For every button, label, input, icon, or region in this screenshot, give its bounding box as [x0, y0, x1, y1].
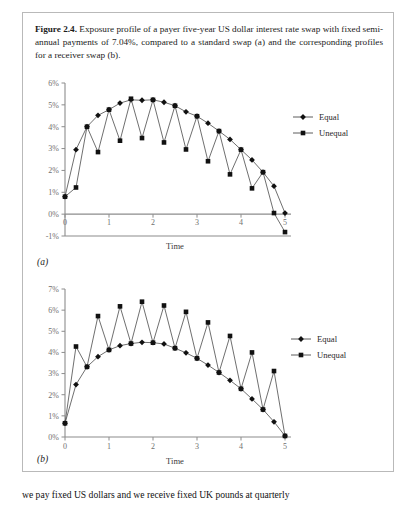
- data-point: [129, 96, 134, 101]
- y-tick-label: 3%: [48, 144, 59, 153]
- series-equal: [62, 97, 288, 216]
- chart-b-svg: 0%1%2%3%4%5%6%7%012345TimeEqualUnequal: [23, 281, 395, 471]
- data-point: [140, 136, 145, 141]
- x-tick-label: 3: [195, 218, 199, 227]
- data-point: [261, 170, 266, 175]
- data-point: [195, 114, 200, 119]
- data-point: [63, 421, 68, 426]
- x-axis-title: Time: [166, 456, 184, 466]
- data-point: [217, 129, 222, 134]
- data-point: [239, 147, 244, 152]
- x-tick-label: 2: [151, 442, 155, 451]
- data-point: [129, 341, 134, 346]
- data-point: [96, 150, 101, 155]
- figure-page: Figure 2.4. Exposure profile of a payer …: [0, 0, 415, 516]
- data-point: [117, 343, 123, 349]
- data-point: [250, 350, 255, 355]
- x-tick-label: 0: [63, 442, 67, 451]
- data-point: [162, 303, 167, 308]
- x-tick-label: 1: [107, 442, 111, 451]
- data-point: [205, 120, 211, 126]
- legend-label-unequal: Unequal: [317, 350, 347, 360]
- data-point: [283, 434, 288, 439]
- data-point: [73, 382, 79, 388]
- data-point: [74, 344, 79, 349]
- x-ticks: 012345: [63, 437, 287, 451]
- data-point: [282, 210, 288, 216]
- data-point: [96, 314, 101, 319]
- series-unequal: [63, 299, 288, 438]
- legend-marker-unequal: [301, 131, 306, 136]
- x-tick-label: 3: [195, 442, 199, 451]
- y-tick-label: 1%: [48, 188, 59, 197]
- figure-caption-label: Figure 2.4.: [35, 24, 77, 34]
- data-point: [151, 98, 156, 103]
- x-tick-label: 4: [239, 442, 243, 451]
- y-tick-label: 2%: [48, 166, 59, 175]
- data-point: [107, 107, 112, 112]
- data-point: [85, 124, 90, 129]
- legend-label-unequal: Unequal: [319, 128, 349, 138]
- legend-label-equal: Equal: [319, 112, 340, 122]
- data-point: [161, 99, 167, 105]
- data-point: [85, 365, 90, 370]
- data-point: [195, 356, 200, 361]
- data-point: [139, 97, 145, 103]
- data-point: [184, 310, 189, 315]
- x-tick-label: 1: [107, 218, 111, 227]
- data-point: [183, 350, 189, 356]
- x-tick-label: 4: [239, 218, 243, 227]
- y-tick-label: 0%: [48, 433, 59, 442]
- body-paragraph: we pay fixed US dollars and we receive f…: [22, 488, 394, 501]
- x-ticks: 012345: [63, 214, 287, 227]
- x-axis-title: Time: [166, 241, 184, 251]
- data-point: [162, 140, 167, 145]
- y-tick-label: 5%: [48, 327, 59, 336]
- data-point: [63, 194, 68, 199]
- data-point: [161, 341, 167, 347]
- x-tick-label: 5: [283, 442, 287, 451]
- y-tick-label: 6%: [48, 79, 59, 88]
- data-point: [139, 339, 145, 345]
- y-tick-label: 3%: [48, 369, 59, 378]
- legend-label-equal: Equal: [317, 334, 338, 344]
- data-point: [206, 159, 211, 164]
- y-tick-label: 0%: [48, 210, 59, 219]
- data-point: [205, 362, 211, 368]
- legend: EqualUnequal: [291, 334, 347, 360]
- data-point: [118, 304, 123, 309]
- data-point: [272, 211, 277, 216]
- data-point: [250, 186, 255, 191]
- data-point: [173, 103, 178, 108]
- y-ticks: -1%0%1%2%3%4%5%6%: [46, 79, 65, 241]
- axes: [65, 83, 291, 236]
- y-tick-label: 7%: [48, 285, 59, 294]
- data-point: [261, 407, 266, 412]
- y-tick-label: 4%: [48, 123, 59, 132]
- data-point: [272, 369, 277, 374]
- data-point: [239, 386, 244, 391]
- series-line: [65, 99, 285, 232]
- chart-a-svg: -1%0%1%2%3%4%5%6%012345TimeEqualUnequal: [23, 75, 395, 270]
- panel-b-label: (b): [37, 454, 48, 464]
- y-ticks: 0%1%2%3%4%5%6%7%: [48, 285, 65, 442]
- y-tick-label: 4%: [48, 348, 59, 357]
- data-point: [283, 230, 288, 235]
- data-point: [107, 348, 112, 353]
- y-tick-label: 1%: [48, 412, 59, 421]
- data-point: [183, 109, 189, 115]
- figure-caption-text: Exposure profile of a payer five-year US…: [35, 24, 383, 60]
- data-point: [173, 346, 178, 351]
- data-point: [228, 334, 233, 339]
- y-tick-label: -1%: [46, 232, 60, 241]
- panel-a-label: (a): [37, 257, 48, 267]
- data-point: [74, 185, 79, 190]
- data-point: [140, 299, 145, 304]
- x-tick-label: 0: [63, 218, 67, 227]
- data-point: [217, 370, 222, 375]
- y-tick-label: 5%: [48, 101, 59, 110]
- legend-marker-unequal: [299, 353, 304, 358]
- y-tick-label: 6%: [48, 306, 59, 315]
- legend-marker-equal: [300, 114, 306, 120]
- series-line: [65, 302, 285, 436]
